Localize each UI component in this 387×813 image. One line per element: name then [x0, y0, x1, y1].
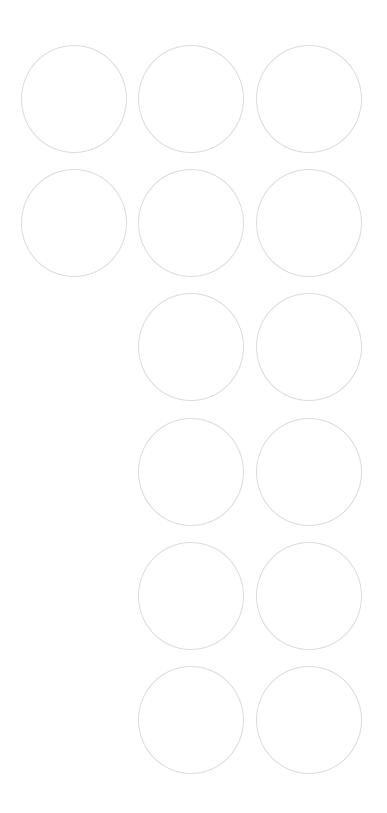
circle-item[interactable]: [256, 169, 362, 277]
circle-grid: [0, 0, 387, 813]
circle-item[interactable]: [256, 542, 362, 650]
circle-item[interactable]: [138, 169, 244, 277]
circle-item[interactable]: [256, 666, 362, 774]
circle-item[interactable]: [138, 45, 244, 153]
circle-item[interactable]: [256, 418, 362, 526]
circle-item[interactable]: [21, 45, 127, 153]
circle-item[interactable]: [138, 542, 244, 650]
circle-item[interactable]: [138, 293, 244, 401]
circle-item[interactable]: [138, 418, 244, 526]
circle-item[interactable]: [256, 293, 362, 401]
circle-item[interactable]: [21, 169, 127, 277]
circle-item[interactable]: [256, 45, 362, 153]
circle-item[interactable]: [138, 666, 244, 774]
